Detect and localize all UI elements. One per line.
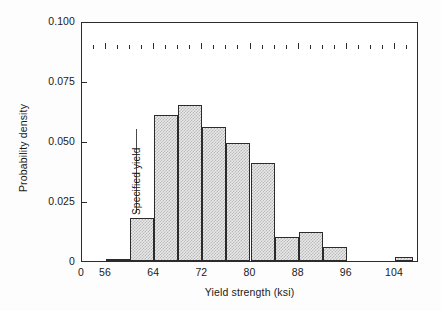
x-axis-tick <box>105 43 106 49</box>
histogram-bar <box>323 247 347 261</box>
x-axis-minor-tick <box>370 45 371 49</box>
histogram-bar <box>226 143 250 261</box>
y-axis-tick <box>81 142 87 143</box>
x-axis-tick <box>346 43 347 49</box>
y-axis-tick-label: 0.075 <box>29 76 75 87</box>
x-axis-minor-tick <box>334 45 335 49</box>
x-axis-minor-tick <box>165 45 166 49</box>
x-axis-minor-tick <box>117 45 118 49</box>
histogram-bar <box>275 237 299 261</box>
x-axis-tick <box>201 43 202 49</box>
x-axis-minor-tick <box>189 45 190 49</box>
x-axis-tick <box>250 43 251 49</box>
y-axis-tick-label: 0.025 <box>29 196 75 207</box>
x-axis-minor-tick <box>141 45 142 49</box>
y-axis-tick-labels: 00.0250.0500.0750.100 <box>23 0 75 311</box>
x-axis-minor-tick <box>358 45 359 49</box>
x-axis-tick-label: 72 <box>181 266 221 278</box>
x-axis-tick-label: 56 <box>85 266 125 278</box>
plot-frame <box>81 22 418 262</box>
x-axis-minor-tick <box>274 45 275 49</box>
x-axis-minor-tick <box>213 45 214 49</box>
y-axis-tick-label: 0.100 <box>29 16 75 27</box>
histogram-bar <box>178 105 202 261</box>
x-axis-tick <box>394 43 395 49</box>
histogram-bar <box>299 232 323 261</box>
specified-yield-label: Specified yield <box>131 147 142 214</box>
x-axis-tick <box>153 43 154 49</box>
histogram-figure: Probability density 00.0250.0500.0750.10… <box>0 0 441 311</box>
plot-area <box>82 23 417 261</box>
x-axis-minor-tick <box>322 45 323 49</box>
histogram-bar <box>106 259 130 261</box>
x-axis-tick-label: 96 <box>326 266 366 278</box>
x-axis-tick-label: 104 <box>374 266 414 278</box>
y-axis-tick <box>81 22 87 23</box>
x-axis-minor-tick <box>406 45 407 49</box>
x-axis-minor-tick <box>129 45 130 49</box>
x-axis-tick-label: 80 <box>230 266 270 278</box>
x-axis-minor-tick <box>177 45 178 49</box>
x-axis-tick <box>298 43 299 49</box>
histogram-bar <box>202 127 226 261</box>
x-axis-minor-tick <box>225 45 226 49</box>
y-axis-tick <box>81 82 87 83</box>
y-axis-tick <box>81 202 87 203</box>
x-axis-label: Yield strength (ksi) <box>81 286 418 298</box>
x-axis-minor-tick <box>262 45 263 49</box>
x-axis-minor-tick <box>237 45 238 49</box>
x-axis-minor-tick <box>93 45 94 49</box>
x-axis-tick-label: 88 <box>278 266 318 278</box>
histogram-bar <box>251 163 275 261</box>
histogram-bar <box>130 218 154 261</box>
x-axis-tick-label: 64 <box>133 266 173 278</box>
histogram-bar <box>395 257 413 261</box>
x-axis-minor-tick <box>286 45 287 49</box>
histogram-bar <box>154 115 178 261</box>
y-axis-tick-label: 0.050 <box>29 136 75 147</box>
x-axis-minor-tick <box>382 45 383 49</box>
x-axis-minor-tick <box>310 45 311 49</box>
